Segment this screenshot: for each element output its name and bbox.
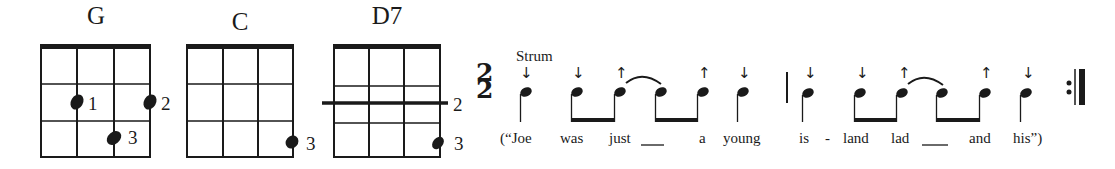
- lyric-word: just: [609, 130, 631, 147]
- lyric-word: was: [560, 130, 583, 147]
- lyric-word: a: [699, 130, 706, 147]
- measure-1: [519, 77, 751, 122]
- lyric-word: and: [969, 130, 991, 147]
- lyric-word: (“Joe: [500, 130, 532, 147]
- lyric-word: is: [799, 130, 809, 147]
- lyric-word: -: [825, 130, 830, 147]
- lyric-word: his”): [1013, 130, 1042, 147]
- lyric-word: young: [723, 130, 761, 147]
- measure-2: [801, 78, 1034, 122]
- repeat-end-barline: [1067, 69, 1086, 105]
- lyric-word: land: [843, 130, 869, 147]
- rhythm-notation: [0, 0, 1115, 169]
- lyric-word: lad: [891, 130, 909, 147]
